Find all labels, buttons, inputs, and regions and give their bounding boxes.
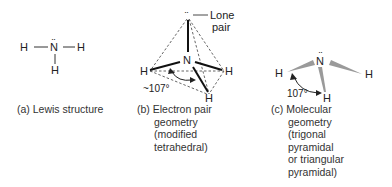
atom-h-left: H xyxy=(140,66,148,77)
lone-pair-label: Lone pair xyxy=(210,9,234,33)
lone-pair-dots: ·· xyxy=(51,34,55,45)
angle-arc xyxy=(172,72,192,80)
angle-label: 107° xyxy=(287,88,308,100)
atom-h-left: H xyxy=(275,68,283,79)
atom-h-right: H xyxy=(77,42,85,53)
atom-n: N xyxy=(183,55,191,66)
arrowhead-icon xyxy=(290,73,297,80)
caption-a: (a) Lewis structure xyxy=(17,103,103,116)
atom-h-right: H xyxy=(225,66,233,77)
angle-label: ~107° xyxy=(143,83,170,95)
arrowhead-icon xyxy=(190,77,196,83)
atom-h-left: H xyxy=(20,42,28,53)
atom-n: N xyxy=(316,56,324,67)
atom-h-bottom: H xyxy=(51,65,59,76)
caption-c: (c) Molecular geometry (trigonal pyramid… xyxy=(271,103,344,178)
wedge-bond xyxy=(318,67,326,92)
caption-b: (b) Electron pair geometry (modified tet… xyxy=(137,103,212,153)
lone-pair-dots: ·· xyxy=(184,7,188,18)
arrowhead-icon xyxy=(316,90,322,96)
wedge-bond xyxy=(329,60,362,74)
wedge-bond xyxy=(287,60,315,72)
atom-h-right: H xyxy=(365,69,373,80)
